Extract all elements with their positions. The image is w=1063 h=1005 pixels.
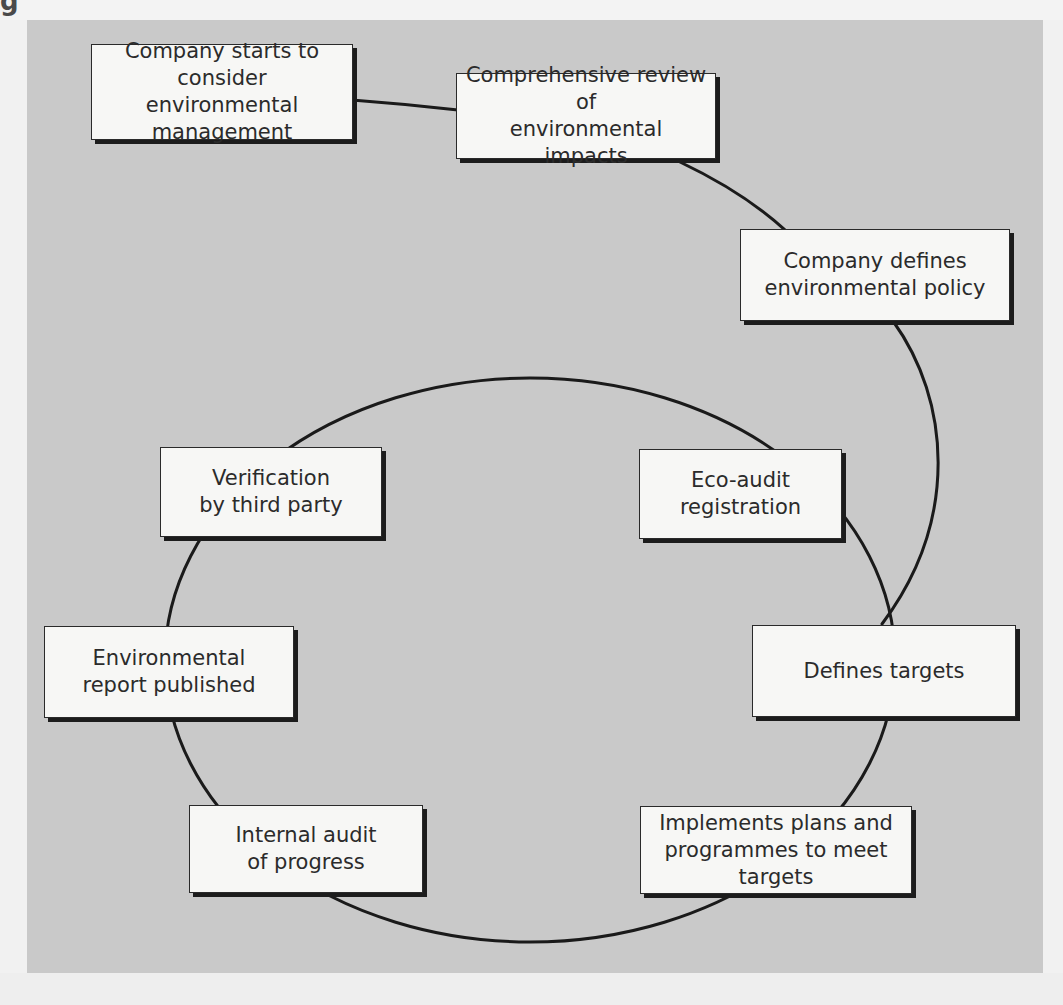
node-implements-plans: Implements plans and programmes to meet … bbox=[640, 806, 912, 894]
node-company-starts: Company starts to consider environmental… bbox=[91, 44, 353, 140]
node-environmental-policy: Company defines environmental policy bbox=[740, 229, 1010, 321]
node-label: Internal audit of progress bbox=[235, 822, 376, 876]
node-label: Verification by third party bbox=[199, 465, 343, 519]
node-label: Company defines environmental policy bbox=[765, 248, 986, 302]
node-label: Company starts to consider environmental… bbox=[100, 38, 344, 146]
node-label: Eco-audit registration bbox=[680, 467, 801, 521]
node-label: Defines targets bbox=[804, 658, 965, 685]
node-defines-targets: Defines targets bbox=[752, 625, 1016, 717]
node-label: Implements plans and programmes to meet … bbox=[649, 810, 903, 891]
node-label: Environmental report published bbox=[83, 645, 256, 699]
node-environmental-report: Environmental report published bbox=[44, 626, 294, 718]
node-verification: Verification by third party bbox=[160, 447, 382, 537]
node-internal-audit: Internal audit of progress bbox=[189, 805, 423, 893]
node-comprehensive-review: Comprehensive review of environmental im… bbox=[456, 73, 716, 159]
connector-policy-targets bbox=[882, 321, 938, 624]
node-eco-audit: Eco-audit registration bbox=[639, 449, 842, 539]
connector-start-review bbox=[352, 100, 458, 110]
node-label: Comprehensive review of environmental im… bbox=[465, 62, 707, 170]
